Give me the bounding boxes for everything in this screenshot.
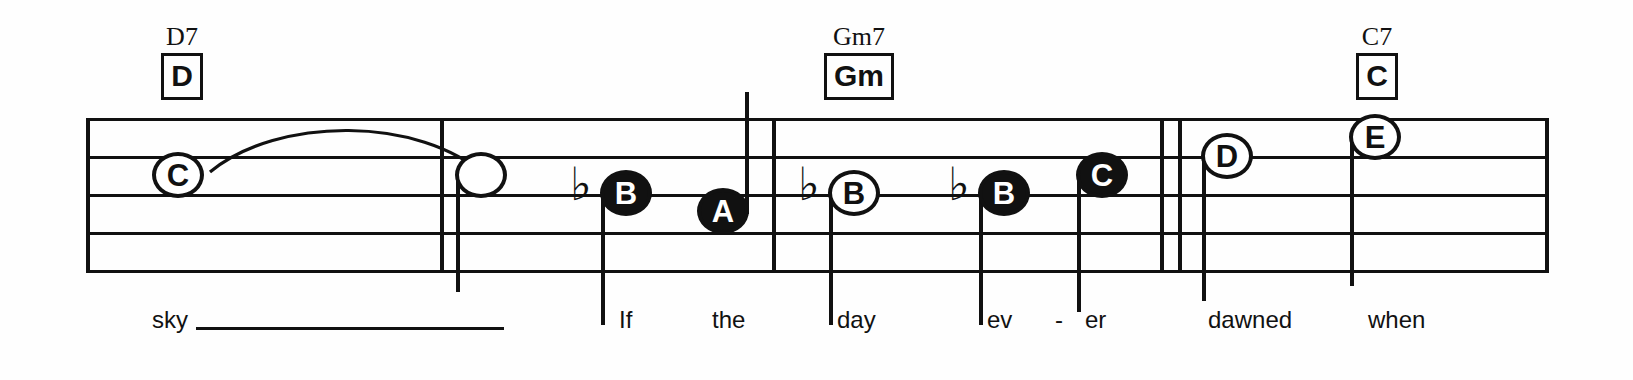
lyric-syllable: dawned	[1208, 308, 1292, 332]
double-barline-a	[1160, 118, 1164, 273]
chord-diagram-box: C	[1356, 53, 1398, 100]
note-stem	[745, 92, 749, 214]
chord-symbol-text: D7	[122, 24, 242, 50]
chord-diagram-box: D	[161, 53, 203, 100]
chord-gm7: Gm7Gm	[799, 24, 919, 100]
lyric-syllable: when	[1368, 308, 1425, 332]
notehead-b: B	[600, 170, 652, 216]
note-d: D	[1201, 133, 1253, 179]
chord-diagram-box: Gm	[824, 53, 894, 100]
notehead-b: B	[978, 170, 1030, 216]
notehead-b: B	[828, 170, 880, 216]
lyric-syllable: day	[837, 308, 876, 332]
flat-accidental-icon: ♭	[798, 162, 820, 208]
flat-accidental-icon: ♭	[570, 162, 592, 208]
notehead-a: A	[697, 188, 749, 234]
note-stem	[1350, 134, 1354, 286]
barline-2	[772, 118, 776, 273]
note-stem	[456, 172, 460, 292]
note-b-flat-2: ♭B	[828, 170, 880, 216]
note-stem	[979, 190, 983, 325]
staff-right-edge	[1545, 118, 1549, 273]
chord-symbol-text: C7	[1317, 24, 1437, 50]
staff-line-1	[86, 118, 1548, 121]
chord-c7: C7C	[1317, 24, 1437, 100]
note-stem	[829, 190, 833, 325]
note-tie-end	[455, 152, 507, 198]
tie-slur	[208, 122, 490, 180]
double-barline-b	[1178, 118, 1182, 273]
notehead-d: D	[1201, 133, 1253, 179]
lyric-syllable: If	[619, 308, 632, 332]
notehead-e: E	[1349, 114, 1401, 160]
chord-symbol-text: Gm7	[799, 24, 919, 50]
notehead-c: C	[152, 152, 204, 198]
note-c-tied: C	[152, 152, 204, 198]
note-a: A	[697, 188, 749, 234]
note-stem	[1077, 172, 1081, 312]
note-e: E	[1349, 114, 1401, 160]
sheet-music-system: D7DGm7GmC7C C♭BA♭B♭BCDE skyIfthedayev-er…	[0, 0, 1633, 380]
note-b-flat-1: ♭B	[600, 170, 652, 216]
flat-accidental-icon: ♭	[948, 162, 970, 208]
notehead-c: C	[1076, 152, 1128, 198]
staff-left-edge	[86, 118, 90, 273]
note-stem	[601, 190, 605, 325]
chord-d7: D7D	[122, 24, 242, 100]
staff-line-5	[86, 270, 1548, 273]
lyric-syllable: -	[1055, 308, 1063, 332]
note-b-flat-3: ♭B	[978, 170, 1030, 216]
note-c-high: C	[1076, 152, 1128, 198]
lyric-syllable: sky	[152, 308, 188, 332]
staff-line-4	[86, 232, 1548, 235]
lyric-syllable: the	[712, 308, 745, 332]
lyric-syllable: ev	[987, 308, 1012, 332]
melisma-extender-line	[196, 327, 504, 330]
lyric-syllable: er	[1085, 308, 1106, 332]
note-stem	[1202, 153, 1206, 301]
notehead-blank	[455, 152, 507, 198]
